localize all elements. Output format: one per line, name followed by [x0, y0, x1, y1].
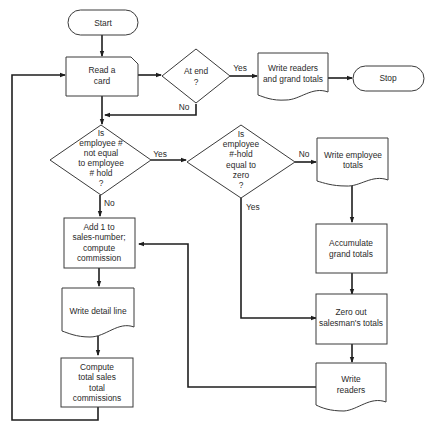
emp-not-equal-decision: Is employee # not equal to employee # ho…: [50, 125, 151, 195]
stop-terminal: Stop: [353, 66, 424, 91]
add-one-text-4: commission: [77, 253, 122, 263]
write-readers-grand-doc: Write readers and grand totals: [258, 53, 328, 100]
write-readers-text-1: Write: [341, 374, 361, 384]
write-readers-doc: Write readers: [316, 363, 386, 411]
write-detail-doc: Write detail line: [62, 288, 134, 337]
emp-text-4: to employee: [78, 158, 124, 168]
label-atend-no: No: [179, 102, 190, 112]
write-readers-text-2: readers: [337, 385, 365, 395]
at-end-decision: At end ?: [162, 49, 230, 103]
label-emp-no: No: [104, 198, 115, 208]
at-end-text-1: At end: [184, 66, 209, 76]
at-end-text-2: ?: [194, 77, 199, 87]
label-zero-no: No: [299, 149, 310, 159]
emp-totals-text-2: totals: [343, 160, 363, 170]
read-card-node: Read a card: [66, 57, 138, 96]
accumulate-process: Accumulate grand totals: [316, 224, 387, 273]
compute-text-1: Compute: [80, 362, 114, 372]
add-one-process: Add 1 to sales-number; compute commissio…: [64, 218, 135, 268]
emp-text-2: employee #: [79, 138, 123, 148]
zero-text-5: zero: [233, 170, 250, 180]
zero-out-text-2: salesman's totals: [319, 318, 383, 328]
add-one-text-1: Add 1 to: [83, 222, 115, 232]
zero-text-3: #-hold: [229, 149, 253, 159]
label-emp-yes: Yes: [153, 149, 167, 159]
write-grand-text-2: and grand totals: [263, 74, 323, 84]
start-terminal: Start: [68, 10, 138, 35]
zero-out-text-1: Zero out: [335, 307, 367, 317]
compute-text-4: commissions: [73, 393, 121, 403]
stop-text: Stop: [379, 73, 397, 83]
add-one-text-2: sales-number;: [72, 232, 125, 242]
compute-text-2: total sales: [78, 372, 116, 382]
zero-out-process: Zero out salesman's totals: [316, 294, 387, 344]
emp-text-6: ?: [99, 178, 104, 188]
emp-totals-text-1: Write employee: [324, 150, 382, 160]
start-text: Start: [94, 18, 112, 28]
compute-text-3: total: [89, 383, 105, 393]
accumulate-text-2: grand totals: [329, 249, 373, 259]
hold-zero-decision: Is employee #-hold equal to zero ?: [187, 125, 295, 198]
compute-totals-process: Compute total sales total commissions: [61, 358, 133, 407]
zero-text-4: equal to: [226, 160, 256, 170]
accumulate-text-1: Accumulate: [329, 238, 373, 248]
write-emp-totals-doc: Write employee totals: [317, 138, 388, 186]
add-one-text-3: compute: [83, 243, 115, 253]
emp-text-3: not equal: [84, 148, 119, 158]
write-grand-text-1: Write readers: [268, 63, 318, 73]
zero-text-1: Is: [238, 129, 245, 139]
label-zero-yes: Yes: [246, 202, 260, 212]
emp-text-5: # hold: [90, 168, 113, 178]
read-card-text-1: Read a: [88, 65, 115, 75]
flowchart-canvas: Yes No Yes No No Yes Start Read a card A…: [0, 0, 432, 429]
edge-zero-yes: [241, 198, 316, 318]
emp-text-1: Is: [98, 128, 105, 138]
edge-readers-addone: [139, 244, 316, 387]
read-card-text-2: card: [94, 76, 111, 86]
zero-text-6: ?: [239, 180, 244, 190]
zero-text-2: employee: [223, 139, 260, 149]
label-atend-yes: Yes: [233, 63, 247, 73]
detail-text: Write detail line: [69, 306, 126, 316]
